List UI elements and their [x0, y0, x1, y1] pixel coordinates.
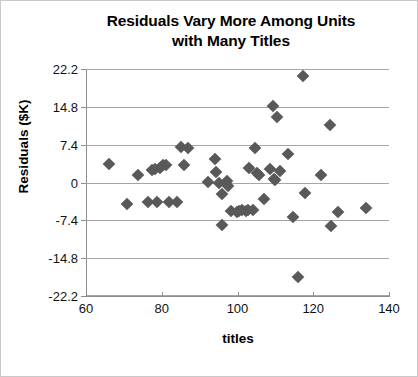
scatter-point	[270, 111, 283, 124]
scatter-point	[210, 165, 223, 178]
x-axis-tick	[162, 292, 163, 297]
y-axis-tick-label: -7.4	[18, 213, 78, 228]
scatter-point	[314, 169, 327, 182]
x-axis-tick-label: 80	[140, 301, 184, 316]
y-axis-tick-label: 0	[18, 175, 78, 190]
y-axis-tick-label: 7.4	[18, 137, 78, 152]
y-axis-tick-label: 14.8	[18, 99, 78, 114]
gridline-horizontal	[86, 220, 389, 221]
scatter-point	[324, 118, 337, 131]
gridline-horizontal	[86, 69, 389, 70]
y-axis-tick-labels: 22.214.87.40-7.4-14.8-22.2	[13, 1, 78, 377]
scatter-point	[359, 201, 372, 214]
scatter-point	[281, 148, 294, 161]
x-axis-tick-label: 60	[64, 301, 108, 316]
x-axis-tick	[86, 292, 87, 297]
x-axis-tick	[389, 292, 390, 297]
y-axis-tick-label: -14.8	[18, 251, 78, 266]
scatter-point	[132, 169, 145, 182]
y-axis-tick	[81, 69, 86, 70]
plot-area	[86, 69, 389, 296]
scatter-point	[325, 220, 338, 233]
x-axis-tick	[238, 292, 239, 297]
x-axis-tick	[313, 292, 314, 297]
y-axis-tick	[81, 183, 86, 184]
gridline-horizontal	[86, 183, 389, 184]
scatter-point	[103, 158, 116, 171]
x-axis-tick-label: 140	[367, 301, 411, 316]
scatter-point	[208, 153, 221, 166]
y-axis-tick	[81, 145, 86, 146]
scatter-chart-figure: Residuals Vary More Among Units with Man…	[0, 0, 418, 377]
y-axis-tick	[81, 258, 86, 259]
scatter-point	[299, 186, 312, 199]
y-axis-tick-label: 22.2	[18, 62, 78, 77]
scatter-point	[258, 192, 271, 205]
x-axis-tick-label: 120	[291, 301, 335, 316]
gridline-horizontal	[86, 145, 389, 146]
chart-title-line-2: with Many Titles	[61, 31, 401, 51]
scatter-point	[297, 69, 310, 82]
scatter-point	[121, 198, 134, 211]
scatter-point	[332, 206, 345, 219]
scatter-point	[249, 141, 262, 154]
y-axis-tick	[81, 220, 86, 221]
scatter-point	[178, 158, 191, 171]
scatter-point	[292, 271, 305, 284]
scatter-point	[286, 211, 299, 224]
x-axis-tick-label: 100	[216, 301, 260, 316]
gridline-horizontal	[86, 107, 389, 108]
scatter-point	[171, 196, 184, 209]
chart-title: Residuals Vary More Among Units with Man…	[61, 11, 401, 51]
y-axis-tick	[81, 107, 86, 108]
gridline-horizontal	[86, 258, 389, 259]
chart-title-line-1: Residuals Vary More Among Units	[61, 11, 401, 31]
scatter-point	[151, 196, 164, 209]
x-axis-title: titles	[86, 331, 390, 346]
